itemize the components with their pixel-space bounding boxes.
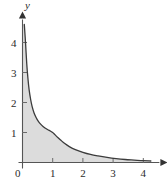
y-tick-label: 4 (11, 37, 17, 49)
chart-figure: 01234 1234 x y (0, 0, 167, 183)
chart-plot-area: 01234 1234 x y (0, 0, 167, 183)
y-tick-label: 1 (11, 127, 17, 139)
x-tick-label: 2 (80, 167, 86, 179)
x-tick-label: 4 (141, 167, 147, 179)
x-tick-label: 0 (15, 167, 21, 179)
y-tick-label: 3 (11, 67, 17, 79)
y-tick-label: 2 (11, 97, 17, 109)
shaded-area (23, 25, 151, 163)
arrow-up-icon (19, 12, 26, 19)
arrow-right-icon (160, 159, 167, 166)
x-tick-label: 1 (50, 167, 56, 179)
x-tick-label: 3 (110, 167, 116, 179)
y-axis-label: y (24, 0, 30, 11)
shaded-area-group (23, 25, 151, 163)
